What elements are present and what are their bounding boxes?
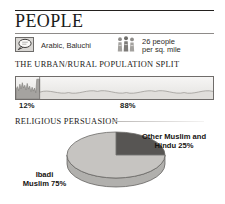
fact-population-density: 26 people per sq. mile [117, 36, 181, 56]
population-density-icon [117, 36, 135, 56]
pie-label-right-line-2: Hindu 25% [155, 141, 194, 150]
city-skyline-graphic [16, 79, 40, 99]
languages-text: Arabic, Baluchi [41, 42, 91, 50]
density-line-2: per sq. mile [142, 45, 181, 54]
urban-rural-heading: THE URBAN/RURAL POPULATION SPLIT [15, 60, 179, 69]
urban-percent-label: 12% [19, 101, 35, 110]
speech-balloon-icon [15, 37, 34, 56]
pie-label-left-line-1: Ibadi [36, 170, 54, 179]
rural-percent-label: 88% [120, 101, 136, 110]
density-text: 26 people per sq. mile [142, 38, 181, 55]
people-infographic-panel: PEOPLE Arabic, Baluchi [0, 0, 225, 204]
pie-label-left-line-2: Muslim 75% [23, 179, 66, 188]
page-title: PEOPLE [15, 11, 83, 31]
fact-languages: Arabic, Baluchi [15, 37, 91, 56]
urban-rural-svg [16, 77, 213, 99]
title-bottom-rule [15, 33, 214, 34]
pie-label-right-line-1: Other Muslim and [142, 132, 206, 141]
urban-rural-split-chart [15, 76, 214, 100]
pie-label-other-muslim-hindu: Other Muslim and Hindu 25% [140, 132, 208, 150]
pie-label-ibadi-muslim: Ibadi Muslim 75% [18, 170, 71, 188]
religion-heading: RELIGIOUS PERSUASION [15, 117, 118, 126]
religion-heading-rule [112, 121, 204, 122]
rural-terrain-graphic [40, 91, 213, 99]
